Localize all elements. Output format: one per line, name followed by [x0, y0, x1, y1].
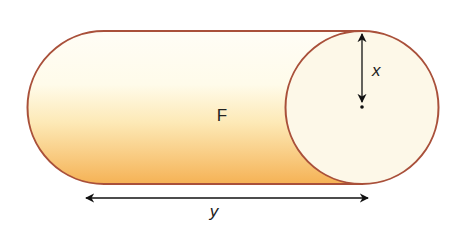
center-point	[360, 105, 364, 109]
radius-label: x	[371, 61, 381, 80]
length-label: y	[209, 202, 220, 221]
cylinder-diagram: F x y	[0, 0, 454, 228]
face-label: F	[217, 106, 227, 125]
